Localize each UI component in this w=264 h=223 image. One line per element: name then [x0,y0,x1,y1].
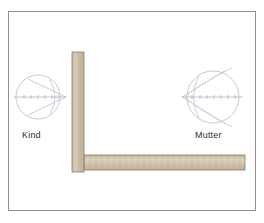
eye-mutter-group [182,68,243,127]
eye-label-kind: Kind [22,131,41,140]
eye-label-mutter: Mutter [195,131,222,140]
figure-canvas: Kind Mutter [0,0,264,223]
diagram-scene [0,0,264,223]
eye-kind-group [14,75,66,119]
t-shaped-barrier [72,52,245,172]
